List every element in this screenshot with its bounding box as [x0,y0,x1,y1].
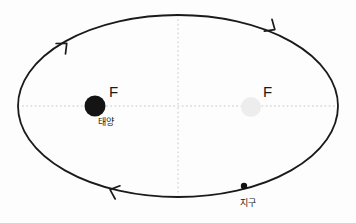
orbital-diagram-canvas: F F 태양 지구 [0,0,356,223]
focus-label-left: F [109,84,118,99]
earth-label: 지구 [240,199,256,208]
empty-focus-marker [241,97,261,117]
focus-label-right: F [263,84,272,99]
sun-label: 태양 [98,118,114,127]
orbit-diagram [0,0,356,223]
sun-body [85,96,106,117]
earth-body [241,183,247,189]
